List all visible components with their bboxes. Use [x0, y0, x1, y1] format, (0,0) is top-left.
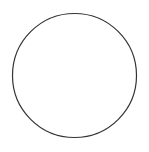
- circle-outline: [13, 14, 137, 138]
- circle-fraction-diagram: Circle divided into twelve equal sectors: [0, 0, 149, 152]
- diagram-root: Circle divided into twelve equal sectors: [0, 0, 149, 152]
